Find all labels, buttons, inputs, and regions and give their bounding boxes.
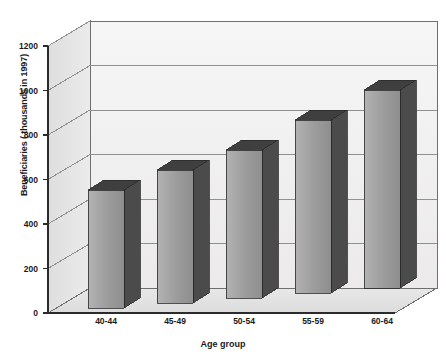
bar-55-59[interactable] — [295, 110, 347, 293]
x-tick-label-40-44: 40-44 — [74, 316, 138, 326]
y-tick-label-200: 200 — [4, 265, 38, 273]
bar-front-face — [364, 90, 400, 288]
y-tick-label-600: 600 — [4, 176, 38, 184]
bar-front-face — [295, 120, 331, 293]
bar-front-face — [88, 190, 124, 308]
y-tick-label-0: 0 — [4, 309, 38, 317]
bar-50-54[interactable] — [226, 140, 278, 298]
x-tick-label-45-49: 45-49 — [143, 316, 207, 326]
y-tick-label-800: 800 — [4, 131, 38, 139]
bar-front-face — [157, 170, 193, 303]
bar-side-face — [331, 110, 347, 293]
bar-40-44[interactable] — [88, 180, 140, 308]
bar-side-face — [262, 140, 278, 298]
y-tick-label-400: 400 — [4, 220, 38, 228]
chart-figure: Beneficiaries ( thousands in 1997) — [0, 0, 446, 363]
bar-45-49[interactable] — [157, 160, 209, 303]
x-axis-title: Age group — [0, 339, 446, 349]
plot-svg — [0, 0, 446, 363]
bar-front-face — [226, 150, 262, 298]
x-tick-label-55-59: 55-59 — [281, 316, 345, 326]
y-tick-marks — [43, 46, 48, 313]
bar-side-face — [124, 180, 140, 308]
plot-area — [0, 0, 446, 363]
bar-60-64[interactable] — [364, 80, 416, 288]
x-tick-label-50-54: 50-54 — [212, 316, 276, 326]
y-tick-label-1000: 1000 — [4, 87, 38, 95]
x-tick-label-60-64: 60-64 — [350, 316, 414, 326]
y-tick-label-1200: 1200 — [4, 42, 38, 50]
bar-side-face — [400, 80, 416, 288]
bar-side-face — [193, 160, 209, 303]
